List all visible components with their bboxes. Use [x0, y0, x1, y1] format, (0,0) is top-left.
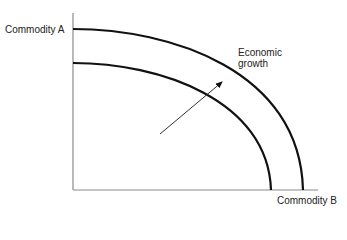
y-axis-label: Commodity A — [5, 24, 64, 36]
growth-arrow — [160, 82, 222, 134]
annotation-line-2: growth — [238, 58, 268, 70]
x-axis-label: Commodity B — [277, 195, 337, 207]
original-ppf-curve — [73, 63, 271, 190]
